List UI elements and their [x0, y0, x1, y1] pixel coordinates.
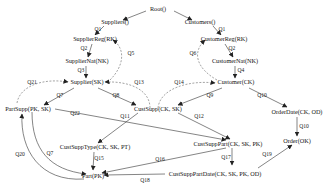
label-q4: Q4	[238, 68, 245, 74]
label-q10-orderdate: Q10	[257, 93, 267, 99]
node-supplier-reg: SupplierReg(RK)	[73, 36, 117, 42]
label-q17: Q17	[221, 155, 231, 161]
node-supplier-nat: SupplierNat(NK)	[66, 58, 109, 64]
node-cust-supp: CustSupp(CK, SK)	[134, 106, 182, 112]
node-part-supp: PartSupp(PK, SK)	[5, 106, 51, 112]
node-supplier: Supplier(SK)	[71, 79, 104, 85]
label-q3: Q3	[78, 68, 85, 74]
label-q7-partsupp: Q7	[47, 151, 54, 157]
label-q12: Q12	[194, 114, 204, 120]
label-q11: Q11	[120, 114, 129, 120]
label-q20: Q20	[15, 152, 25, 158]
node-suppliers: Suppliers()	[101, 19, 129, 25]
label-q8: Q8	[113, 93, 120, 99]
edge-q10-orderdate	[249, 88, 287, 107]
node-order: Order(OK)	[283, 138, 311, 144]
node-cust-supp-part-date: CustSuppPartDate(CK, SK, PK, OD)	[169, 171, 261, 177]
node-order-date: OrderDate(CK, OD)	[272, 109, 323, 115]
label-q7-supplier: Q7	[57, 93, 64, 99]
label-q10-order: Q10	[299, 124, 309, 130]
edge-q9	[178, 88, 222, 105]
query-graph-diagram: Root() Suppliers() Customers() SupplierR…	[0, 0, 330, 188]
label-q5: Q5	[128, 51, 135, 57]
node-customer-nat: CustomerNat(NK)	[212, 58, 258, 64]
label-q21: Q21	[27, 80, 37, 86]
edge-q18	[104, 174, 165, 175]
label-q1-suppliers: Q1	[95, 27, 102, 33]
node-root: Root()	[150, 6, 166, 12]
node-part: Part(PK)	[82, 173, 104, 179]
label-q2-customers: Q2	[229, 46, 236, 52]
node-customer-reg: CustomerReg(RK)	[201, 36, 248, 42]
label-q6: Q6	[190, 51, 197, 57]
label-q13: Q13	[134, 80, 144, 86]
node-customer: Customer(CK)	[218, 79, 255, 85]
label-q16: Q16	[155, 157, 165, 163]
label-q14: Q14	[174, 80, 184, 86]
label-q15: Q15	[94, 156, 104, 162]
edge-q5	[110, 40, 122, 80]
label-q9: Q9	[207, 93, 214, 99]
edge-q11	[98, 113, 138, 143]
label-q2-suppliers: Q2	[81, 46, 88, 52]
label-q19: Q19	[262, 152, 272, 158]
label-q1-customers: Q1	[219, 27, 226, 33]
node-cust-supp-part: CustSuppPart(CK, SK, PK)	[194, 141, 263, 147]
label-q18: Q18	[140, 178, 150, 184]
edge-q2-suppliers	[88, 44, 92, 57]
label-q22: Q22	[70, 111, 80, 117]
node-cust-supp-type: CustSuppType(CK, SK, PT)	[60, 144, 130, 150]
node-customers: Customers()	[185, 19, 216, 25]
